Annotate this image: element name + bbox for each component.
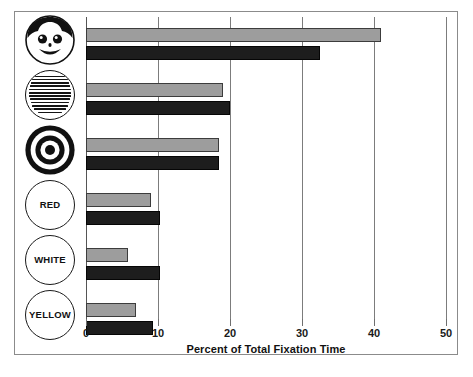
tick-label-0: 0 [66, 327, 106, 340]
bar-bullseye-icon-black-series [86, 156, 219, 170]
tick-0 [86, 319, 87, 326]
red-circle-label: RED [40, 199, 61, 210]
bar-face-icon-black-series [86, 46, 320, 60]
gridline-50 [446, 17, 447, 319]
tick-30 [302, 319, 303, 326]
tick-20 [230, 319, 231, 326]
tick-label-10: 10 [138, 327, 178, 340]
bullseye-target-icon [24, 124, 76, 176]
tick-10 [158, 319, 159, 326]
category-cell-text-passage [17, 67, 83, 122]
figure-frame: RED WHITE YELLOW 01020304050 Percent of … [14, 11, 458, 355]
gridline-20 [230, 17, 231, 319]
bar-face-icon-gray-series [86, 28, 381, 42]
tick-label-50: 50 [426, 327, 466, 340]
category-cell-bullseye [17, 122, 83, 177]
x-axis-title: Percent of Total Fixation Time [86, 343, 446, 355]
tick-50 [446, 319, 447, 326]
category-cell-white: WHITE [17, 232, 83, 287]
bar-RED-gray-series [86, 193, 151, 207]
bar-WHITE-black-series [86, 266, 160, 280]
smiling-face-icon [24, 14, 76, 66]
gridline-40 [374, 17, 375, 319]
category-icon-column: RED WHITE YELLOW [15, 12, 86, 324]
plot-area: 01020304050 Percent of Total Fixation Ti… [86, 17, 446, 319]
bar-YELLOW-gray-series [86, 303, 136, 317]
category-cell-face [17, 12, 83, 67]
bar-text-page-icon-black-series [86, 101, 230, 115]
category-cell-red: RED [17, 177, 83, 232]
bar-bullseye-icon-gray-series [86, 138, 219, 152]
tick-label-40: 40 [354, 327, 394, 340]
bar-RED-black-series [86, 211, 160, 225]
yellow-circle-label: YELLOW [29, 309, 71, 320]
tick-40 [374, 319, 375, 326]
tick-label-30: 30 [282, 327, 322, 340]
white-color-circle: WHITE [25, 235, 75, 285]
white-circle-label: WHITE [34, 254, 66, 265]
bar-WHITE-gray-series [86, 248, 128, 262]
bar-text-page-icon-gray-series [86, 83, 223, 97]
text-passage-icon [25, 70, 75, 120]
tick-label-20: 20 [210, 327, 250, 340]
gridline-30 [302, 17, 303, 319]
red-color-circle: RED [25, 180, 75, 230]
